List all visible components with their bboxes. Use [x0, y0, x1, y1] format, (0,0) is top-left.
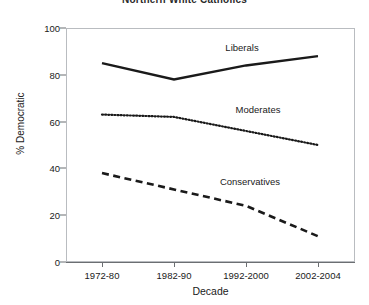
y-tick-mark-80 [60, 74, 66, 75]
y-tick-label-40: 40 [30, 163, 60, 174]
y-tick-mark-20 [60, 215, 66, 216]
chart-figure: Northern White Catholics % Democratic 10… [0, 0, 369, 305]
x-tick-mark-3 [246, 262, 247, 267]
series-label-moderates: Moderates [236, 104, 281, 115]
series-label-conservatives: Conservatives [220, 176, 280, 187]
x-tick-mark-4 [318, 262, 319, 267]
y-tick-label-0: 0 [30, 257, 60, 268]
y-tick-label-100: 100 [30, 23, 60, 34]
x-tick-mark-2 [174, 262, 175, 267]
y-tick-mark-40 [60, 168, 66, 169]
chart-title: Northern White Catholics [0, 0, 369, 5]
x-tick-mark-1 [102, 262, 103, 267]
series-label-liberals: Liberals [225, 42, 258, 53]
x-tick-label-4: 2002-2004 [273, 270, 363, 281]
y-tick-label-20: 20 [30, 210, 60, 221]
y-tick-mark-100 [60, 28, 66, 29]
x-axis-line [66, 262, 355, 263]
y-axis-title: % Democratic [15, 64, 26, 184]
y-tick-label-60: 60 [30, 116, 60, 127]
x-axis-title: Decade [66, 285, 355, 297]
plot-area [66, 28, 355, 262]
y-tick-mark-60 [60, 121, 66, 122]
y-tick-label-80: 80 [30, 69, 60, 80]
